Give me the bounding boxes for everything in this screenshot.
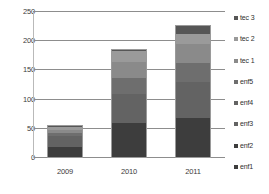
x-tick-label-2011: 2011 bbox=[161, 167, 225, 176]
bar-segment-tec1-2011 bbox=[175, 44, 211, 63]
bar-2010 bbox=[111, 49, 147, 158]
legend-swatch-icon bbox=[234, 37, 238, 41]
legend-label: enf3 bbox=[240, 120, 253, 128]
legend-item-enf4[interactable]: enf4 bbox=[234, 99, 253, 107]
legend-swatch-icon bbox=[234, 16, 238, 20]
bar-segment-enf3-2011 bbox=[175, 100, 211, 118]
bar-segment-tec1-2010 bbox=[111, 62, 147, 78]
bar-segment-enf1-2010 bbox=[111, 140, 147, 158]
legend-swatch-icon bbox=[234, 80, 238, 84]
legend-label: enf4 bbox=[240, 99, 253, 107]
x-tick-label-2010: 2010 bbox=[97, 167, 161, 176]
bar-segment-enf3-2010 bbox=[111, 108, 147, 123]
bar-segment-tec2-2010 bbox=[111, 51, 147, 62]
bar-segment-enf5-2010 bbox=[111, 78, 147, 94]
legend-swatch-icon bbox=[234, 144, 238, 148]
y-tick-label: 50 bbox=[9, 125, 35, 133]
bar-segment-enf2-2010 bbox=[111, 123, 147, 141]
bar-segment-tec2-2011 bbox=[175, 34, 211, 44]
bars-layer bbox=[33, 12, 225, 158]
legend-label: enf2 bbox=[240, 142, 253, 150]
y-tick-label: 150 bbox=[9, 66, 35, 74]
legend-item-enf2[interactable]: enf2 bbox=[234, 142, 253, 150]
legend-label: tec 2 bbox=[240, 35, 254, 43]
legend-item-enf3[interactable]: enf3 bbox=[234, 120, 253, 128]
bar-segment-enf2-2011 bbox=[175, 118, 211, 138]
legend-swatch-icon bbox=[234, 59, 238, 63]
legend-label: tec 3 bbox=[240, 14, 254, 22]
plot-area bbox=[33, 12, 225, 158]
bar-segment-enf1-2011 bbox=[175, 138, 211, 158]
stacked-bar-chart: 050100150200250 200920102011 tec 3tec 2t… bbox=[0, 0, 269, 194]
legend-item-tec1[interactable]: tec 1 bbox=[234, 57, 254, 65]
bar-segment-enf1-2009 bbox=[47, 152, 83, 158]
y-tick-label: 0 bbox=[9, 154, 35, 162]
legend-label: enf1 bbox=[240, 163, 253, 171]
bar-2011 bbox=[175, 25, 211, 158]
bar-segment-enf5-2011 bbox=[175, 63, 211, 82]
legend-swatch-icon bbox=[234, 165, 238, 169]
bar-2009 bbox=[47, 125, 83, 158]
legend-item-enf5[interactable]: enf5 bbox=[234, 78, 253, 86]
y-tick-label: 100 bbox=[9, 96, 35, 104]
bar-segment-enf4-2011 bbox=[175, 82, 211, 100]
legend-swatch-icon bbox=[234, 122, 238, 126]
legend-swatch-icon bbox=[234, 101, 238, 105]
chart-legend: tec 3tec 2tec 1enf5enf4enf3enf2enf1 bbox=[234, 12, 269, 182]
x-tick-label-2009: 2009 bbox=[33, 167, 97, 176]
legend-item-tec3[interactable]: tec 3 bbox=[234, 14, 254, 22]
legend-label: tec 1 bbox=[240, 57, 254, 65]
legend-item-enf1[interactable]: enf1 bbox=[234, 163, 253, 171]
bar-segment-tec3-2011 bbox=[175, 25, 211, 34]
y-tick-label: 200 bbox=[9, 37, 35, 45]
legend-item-tec2[interactable]: tec 2 bbox=[234, 35, 254, 43]
legend-label: enf5 bbox=[240, 78, 253, 86]
bar-segment-enf4-2010 bbox=[111, 94, 147, 109]
y-tick-label: 250 bbox=[9, 8, 35, 16]
